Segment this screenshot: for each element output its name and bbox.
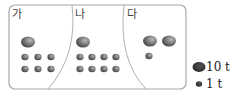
small-pebble-icon [47,66,54,72]
large-pebble-icon [21,37,35,48]
small-pebble-icon [76,54,83,60]
small-pebble-icon [34,54,41,60]
legend-large-label: 10 t [206,61,230,73]
legend-large-pebble-icon [193,62,206,72]
small-pebble-icon [76,66,83,72]
small-pebble-icon [100,66,107,72]
large-pebble-icon [76,37,90,48]
large-pebble-icon [143,36,157,47]
legend [193,62,206,87]
region-label-na: 나 [75,9,85,20]
region-na-pebbles [76,37,120,73]
region-ga-pebbles [21,37,55,73]
region-label-ga: 가 [12,9,22,20]
outer-frame [9,5,186,89]
small-pebble-icon [21,54,28,60]
region-da-pebbles [143,36,176,60]
small-pebble-icon [112,54,119,60]
small-pebble-icon [112,66,119,72]
large-pebble-icon [162,36,176,47]
small-pebble-icon [145,53,152,59]
divider-curve-1 [48,5,73,89]
small-pebble-icon [100,54,107,60]
legend-small-label: 1 t [206,78,222,90]
small-pebble-icon [88,54,95,60]
diagram-canvas [0,0,233,98]
small-pebble-icon [21,66,28,72]
small-pebble-icon [88,66,95,72]
small-pebble-icon [47,54,54,60]
small-pebble-icon [34,66,41,72]
legend-small-pebble-icon [196,81,202,87]
region-label-da: 다 [127,9,137,20]
